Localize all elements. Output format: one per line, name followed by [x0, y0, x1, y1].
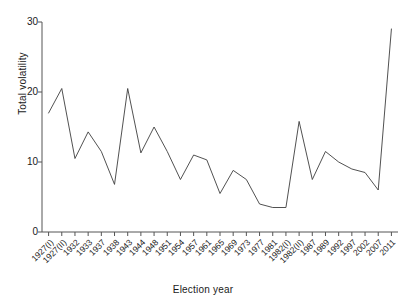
x-axis-tick-marks	[49, 232, 392, 236]
volatility-line-series	[49, 29, 392, 208]
axes	[42, 22, 398, 232]
chart-figure: Total volatility Election year 0102030 1…	[0, 0, 406, 307]
y-axis-tick-marks	[38, 22, 42, 232]
plot-area	[0, 0, 406, 307]
